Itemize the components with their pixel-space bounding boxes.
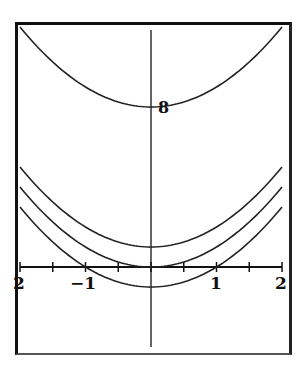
x-tick-label-pos2: 2 — [275, 275, 287, 292]
x-tick-label-neg1: −1 — [70, 275, 96, 292]
x-tick-label-pos1: 1 — [210, 275, 222, 292]
x-tick-label-neg2: 2 — [13, 275, 25, 292]
plot-area — [0, 0, 304, 369]
vertex-annotation: 8 — [158, 100, 169, 116]
